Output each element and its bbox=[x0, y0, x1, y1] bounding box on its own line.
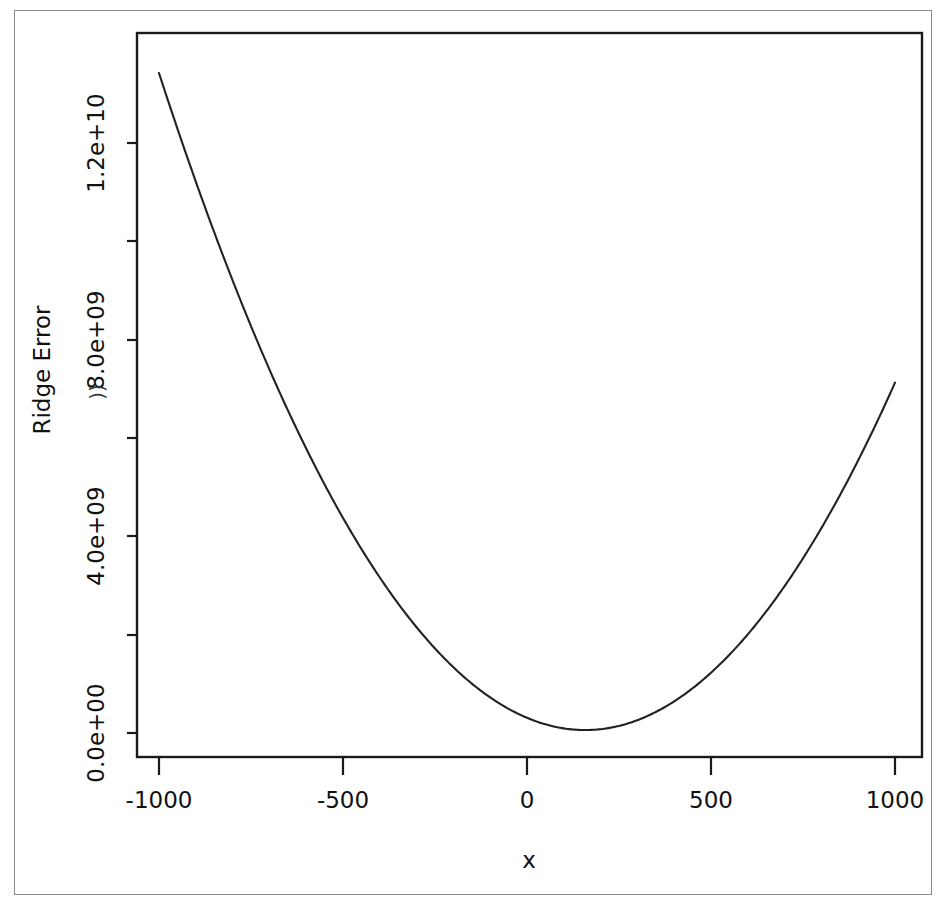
ridge-error-figure: 0.0e+00 4.0e+09 8.0e+09 1.2e+10 )) Ridge… bbox=[0, 0, 947, 917]
y-tick-label-2: 8.0e+09 bbox=[83, 290, 109, 389]
y-tick-label-3: 1.2e+10 bbox=[83, 93, 109, 192]
y-tick-label-1: 4.0e+09 bbox=[83, 486, 109, 585]
x-tick-label-2: 0 bbox=[520, 787, 535, 813]
x-axis-title: x bbox=[522, 847, 536, 873]
ridge-error-curve bbox=[159, 73, 895, 730]
x-tick-label-1: -500 bbox=[317, 787, 369, 813]
x-tick-label-0: -1000 bbox=[126, 787, 193, 813]
y-tick-label-0: 0.0e+00 bbox=[83, 683, 109, 782]
x-tick-label-4: 1000 bbox=[866, 787, 925, 813]
y-axis-tick-labels: 0.0e+00 4.0e+09 8.0e+09 1.2e+10 bbox=[83, 93, 109, 782]
chart-plot-area: 0.0e+00 4.0e+09 8.0e+09 1.2e+10 )) Ridge… bbox=[0, 0, 947, 917]
y-axis-title: Ridge Error bbox=[29, 305, 55, 435]
x-axis-tick-labels: -1000 -500 0 500 1000 bbox=[126, 787, 925, 813]
plot-box bbox=[137, 33, 922, 757]
x-tick-label-3: 500 bbox=[689, 787, 733, 813]
x-axis-ticks bbox=[159, 757, 895, 775]
y-axis-ticks bbox=[127, 143, 137, 733]
scan-artifact-mark: )) bbox=[85, 384, 109, 400]
